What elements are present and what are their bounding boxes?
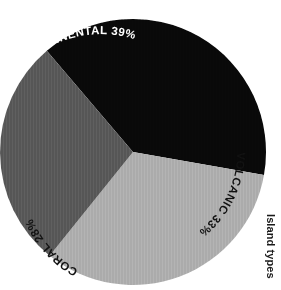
pie-chart: CONTINENTAL 39% VOLCANIC 33% CORAL 28%: [0, 0, 281, 290]
chart-figure: CONTINENTAL 39% VOLCANIC 33% CORAL 28% I…: [0, 0, 281, 290]
